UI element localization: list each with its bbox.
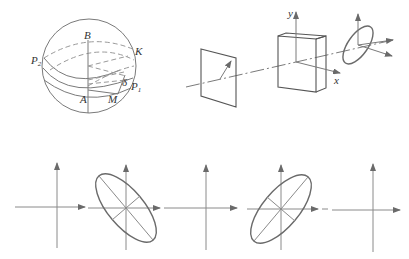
label-P1: P1 — [130, 80, 141, 94]
state-1-axes — [15, 163, 85, 248]
polarization-sequence — [15, 163, 400, 253]
state-2-ellipse — [85, 164, 170, 251]
state-3-axes — [170, 165, 237, 250]
state-4-ellipse — [240, 165, 328, 253]
poincare-sphere: B K P2 δ P1 A M — [30, 19, 143, 113]
label-K: K — [134, 45, 143, 57]
polarizer-arrow — [220, 61, 231, 79]
polarization-diagram: B K P2 δ P1 A M y x — [0, 0, 409, 259]
label-M: M — [107, 93, 118, 105]
upper-latitude-back — [44, 42, 135, 58]
label-x: x — [333, 74, 339, 86]
polarizer-plate — [201, 49, 236, 107]
inner-dash-1 — [88, 56, 128, 66]
label-B: B — [84, 29, 91, 41]
x-axis — [296, 62, 340, 73]
upper-latitude-front — [44, 58, 120, 79]
inner-dash-3 — [88, 72, 124, 80]
label-y: y — [287, 7, 293, 19]
beam-axis — [186, 40, 393, 87]
wave-plate-crystal — [278, 33, 326, 92]
optical-setup: y x — [186, 7, 393, 107]
label-A: A — [79, 93, 87, 105]
state-5-axes — [332, 164, 400, 252]
output-polarization-ellipse — [337, 14, 393, 69]
label-delta: δ — [122, 76, 128, 88]
label-P2: P2 — [30, 54, 42, 68]
